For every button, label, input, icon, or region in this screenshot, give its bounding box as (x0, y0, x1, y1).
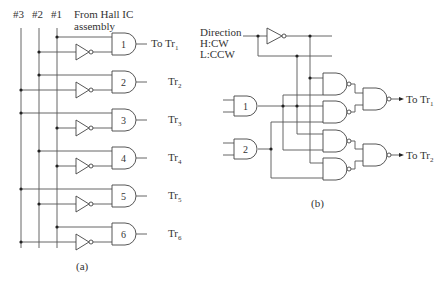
inverter-bubble-icon (89, 126, 93, 130)
inverter-icon (76, 120, 89, 136)
junction-dot (281, 104, 284, 107)
junction-dot (37, 202, 40, 205)
output-label-tr1: To Tr1 (406, 93, 434, 108)
output-label-tr6: Tr6 (168, 227, 182, 242)
direction-inverter (267, 28, 286, 44)
inverter-bubble-icon (89, 240, 93, 244)
and-gate-3: 3Tr3 (19, 109, 182, 136)
input-and-gates: 12 (234, 96, 257, 159)
inverter-bubble-icon (89, 202, 93, 206)
gate-number: 4 (121, 153, 126, 164)
junction-dot (55, 164, 58, 167)
nand-c-icon (323, 130, 347, 152)
and-gate-1: 1To Tr1 (37, 33, 179, 60)
gate-number: 6 (121, 229, 126, 240)
and-gate-6: 6Tr6 (19, 223, 182, 250)
junction-dot (295, 104, 298, 107)
nand-a-icon (323, 73, 347, 95)
junction-dot (55, 225, 58, 228)
caption-a: (a) (76, 260, 89, 273)
and-gate-4: 4Tr4 (37, 147, 182, 174)
arrow-right-icon (399, 97, 404, 101)
inverter-bubble-icon (89, 88, 93, 92)
direction-wires (243, 36, 332, 56)
nand-bubble-icon (387, 153, 391, 157)
output-label-tr4: Tr4 (168, 151, 182, 166)
gate-number: 1 (121, 39, 126, 50)
junction-dot (55, 35, 58, 38)
output-label-tr1: To Tr1 (151, 37, 179, 52)
nand-stage-1 (323, 73, 351, 180)
ccw-label: L:CCW (200, 48, 235, 60)
nand-d-icon (323, 158, 347, 180)
figure-b: Direction H:CW L:CCW 12 (200, 26, 434, 210)
wires-to-nand-e (351, 84, 363, 112)
inverter-icon (76, 234, 89, 250)
inverter-bubble-icon (89, 50, 93, 54)
junction-dot (19, 88, 22, 91)
junction-dot (256, 34, 259, 37)
junction-dot (37, 149, 40, 152)
junction-dot (19, 240, 22, 243)
inverter-icon (76, 196, 89, 212)
source-label-line1: From Hall IC (74, 8, 133, 20)
bus-label-1: #1 (51, 8, 62, 20)
gate-number: 2 (121, 77, 126, 88)
and-gate-5: 5Tr5 (19, 185, 182, 212)
and-gate-2: 2Tr2 (19, 71, 182, 98)
inverter-bubble-icon (89, 164, 93, 168)
source-label-line2: assembly (74, 20, 115, 32)
decoder-gates: 1To Tr12Tr23Tr34Tr45Tr56Tr6 (19, 33, 182, 250)
inverter-triangle-icon (267, 28, 282, 44)
hall-signal-buses (21, 28, 57, 248)
gate-number: 1 (243, 101, 248, 112)
output-label-tr3: Tr3 (168, 113, 182, 128)
nand-bubble-icon (387, 97, 391, 101)
inverter-bubble-icon (282, 34, 286, 38)
junction-dot (308, 34, 311, 37)
gate-number: 3 (121, 115, 126, 126)
junction-dot (295, 54, 298, 57)
junction-dot (19, 111, 22, 114)
motor-drive-logic-diagram: #3 #2 #1 From Hall IC assembly 1To Tr12T… (0, 0, 446, 286)
nand-b-icon (323, 101, 347, 123)
inverter-icon (76, 44, 89, 60)
nand-stage-2 (363, 88, 391, 166)
wires-to-nand-f (351, 141, 363, 169)
junction-dot (55, 126, 58, 129)
inverter-icon (76, 158, 89, 174)
output-label-tr2: To Tr2 (406, 149, 434, 164)
junction-dot (308, 76, 311, 79)
wire-dir-inv (310, 36, 323, 163)
arrow-right-icon (399, 153, 404, 157)
bus-label-3: #3 (13, 8, 25, 20)
junction-dot (269, 147, 272, 150)
and1-fanout (283, 95, 323, 150)
nand-e-icon (363, 88, 387, 110)
output-labels: To Tr1To Tr2 (406, 93, 434, 164)
gate-number: 5 (121, 191, 126, 202)
output-label-tr5: Tr5 (168, 189, 182, 204)
nand-bubble-icon (347, 110, 351, 114)
nand-bubble-icon (347, 139, 351, 143)
figure-a: #3 #2 #1 From Hall IC assembly 1To Tr12T… (13, 8, 182, 273)
junction-dot (37, 73, 40, 76)
nand-bubble-icon (347, 167, 351, 171)
gate-number: 2 (243, 144, 248, 155)
bus-label-2: #2 (32, 8, 43, 20)
nand-bubble-icon (347, 82, 351, 86)
caption-b: (b) (311, 197, 324, 210)
inverter-icon (76, 82, 89, 98)
junction-dot (37, 50, 40, 53)
nand-f-icon (363, 144, 387, 166)
junction-dot (19, 187, 22, 190)
output-label-tr2: Tr2 (168, 75, 182, 90)
